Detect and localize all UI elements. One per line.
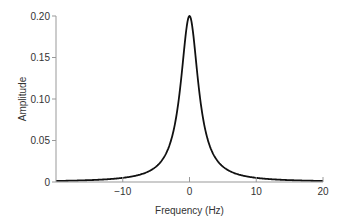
chart: 00.050.100.150.20−1001020 Frequency (Hz)… <box>0 0 340 224</box>
axes: 00.050.100.150.20−1001020 <box>31 11 329 198</box>
x-tick-label: −10 <box>114 186 131 197</box>
y-tick-label: 0.10 <box>31 94 51 105</box>
x-axis-label: Frequency (Hz) <box>155 205 224 216</box>
x-tick-label: 20 <box>317 186 329 197</box>
amplitude-curve <box>56 16 323 181</box>
y-tick-label: 0 <box>44 177 50 188</box>
x-tick-label: 0 <box>187 186 193 197</box>
y-tick-label: 0.05 <box>31 135 51 146</box>
y-tick-label: 0.20 <box>31 11 51 22</box>
y-tick-label: 0.15 <box>31 52 51 63</box>
x-tick-label: 10 <box>251 186 263 197</box>
plot-area <box>56 16 323 181</box>
y-axis-label: Amplitude <box>17 76 28 121</box>
